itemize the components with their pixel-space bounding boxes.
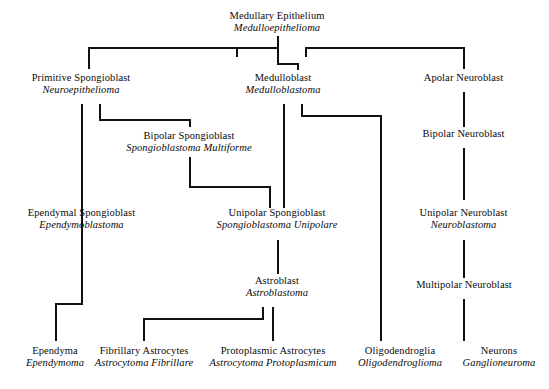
node-latin: Spongioblastoma Multiforme bbox=[110, 142, 268, 154]
node-latin: Astrocytoma Fibrillare bbox=[89, 357, 199, 369]
node-oligodendroglia[interactable]: Oligodendroglia Oligodendroglioma bbox=[351, 345, 449, 369]
connector-unipolar-in-left bbox=[269, 186, 271, 208]
node-label: Bipolar Spongioblast bbox=[110, 130, 268, 142]
connector-medulloblast-to-oligodendroglia bbox=[380, 115, 382, 341]
node-label: Ependyma bbox=[9, 345, 101, 357]
node-fibrillary-astrocytes[interactable]: Fibrillary Astrocytes Astrocytoma Fibril… bbox=[89, 345, 199, 369]
node-label: Medullary Epithelium bbox=[197, 10, 357, 22]
node-label: Multipolar Neuroblast bbox=[400, 279, 528, 291]
node-label: Apolar Neuroblast bbox=[405, 72, 522, 84]
connector-medulloblast-stem bbox=[277, 47, 279, 64]
node-label: Astroblast bbox=[222, 275, 332, 287]
node-latin: Neuroepithelioma bbox=[11, 84, 151, 96]
node-medullary-epithelium[interactable]: Medullary Epithelium Medulloepithelioma bbox=[197, 10, 357, 34]
connector-apolar-drop bbox=[463, 47, 465, 69]
node-label: Protoplasmic Astrocytes bbox=[205, 345, 341, 357]
node-label: Fibrillary Astrocytes bbox=[89, 345, 199, 357]
node-unipolar-neuroblast[interactable]: Unipolar Neuroblast Neuroblastoma bbox=[406, 207, 521, 231]
connector-ependymal-in bbox=[81, 180, 83, 208]
node-latin: Ganglioneuroma bbox=[453, 357, 545, 369]
connector-bipolar-out bbox=[189, 157, 191, 188]
connector-unipolar-to-multipolar bbox=[463, 240, 465, 278]
lineage-diagram: Medullary Epithelium Medulloepithelioma … bbox=[0, 0, 549, 389]
node-ependymal-spongioblast[interactable]: Ependymal Spongioblast Ependymoblastoma bbox=[9, 207, 154, 231]
node-label: Primitive Spongioblast bbox=[11, 72, 151, 84]
node-ependyma[interactable]: Ependyma Ependymoma bbox=[9, 345, 101, 369]
connector-top-bus-right bbox=[305, 47, 465, 49]
node-label: Unipolar Neuroblast bbox=[406, 207, 521, 219]
node-latin: Astroblastoma bbox=[222, 287, 332, 299]
connector-top-bus-right-tip bbox=[305, 47, 307, 57]
connector-top-bus-left bbox=[88, 47, 278, 49]
node-astroblast[interactable]: Astroblast Astroblastoma bbox=[222, 275, 332, 299]
connector-unipolar-to-astroblast bbox=[277, 240, 279, 274]
node-label: Medulloblast bbox=[228, 72, 338, 84]
node-latin: Ependymoblastoma bbox=[9, 219, 154, 231]
connector-primitive-to-bipolar-stem bbox=[99, 104, 101, 120]
node-apolar-neuroblast[interactable]: Apolar Neuroblast bbox=[405, 72, 522, 84]
node-label: Ependymal Spongioblast bbox=[9, 207, 154, 219]
connector-bipolar-drop bbox=[189, 119, 191, 127]
connector-ependymal-out bbox=[81, 240, 83, 305]
node-label: Unipolar Spongioblast bbox=[196, 207, 358, 219]
node-protoplasmic-astrocytes[interactable]: Protoplasmic Astrocytes Astrocytoma Prot… bbox=[205, 345, 341, 369]
node-label: Oligodendroglia bbox=[351, 345, 449, 357]
connector-bipolar-to-unipolar-bus bbox=[189, 186, 271, 188]
connector-protoplasmic-drop bbox=[272, 307, 274, 341]
connector-bipolar-to-unipolar-neuro bbox=[463, 148, 465, 200]
node-latin: Ependymoma bbox=[9, 357, 101, 369]
connector-medulloblast-to-oligo-bus bbox=[301, 115, 382, 117]
connector-medulloblast-drop bbox=[297, 63, 299, 70]
connector-multipolar-to-neurons bbox=[463, 299, 465, 341]
node-latin: Medulloepithelioma bbox=[197, 22, 357, 34]
node-bipolar-neuroblast[interactable]: Bipolar Neuroblast bbox=[406, 128, 521, 140]
node-neurons[interactable]: Neurons Ganglioneuroma bbox=[453, 345, 545, 369]
node-unipolar-spongioblast[interactable]: Unipolar Spongioblast Spongioblastoma Un… bbox=[196, 207, 358, 231]
node-bipolar-spongioblast[interactable]: Bipolar Spongioblast Spongioblastoma Mul… bbox=[110, 130, 268, 154]
connector-apolar-to-bipolar bbox=[463, 92, 465, 127]
node-multipolar-neuroblast[interactable]: Multipolar Neuroblast bbox=[400, 279, 528, 291]
node-latin: Astrocytoma Protoplasmicum bbox=[205, 357, 341, 369]
node-latin: Oligodendroglioma bbox=[351, 357, 449, 369]
connector-primitive-drop bbox=[88, 47, 90, 69]
node-medulloblast[interactable]: Medulloblast Medulloblastoma bbox=[228, 72, 338, 96]
connector-ependyma-drop bbox=[55, 303, 57, 341]
connector-medulloblast-to-unipolar bbox=[283, 104, 285, 208]
node-latin: Neuroblastoma bbox=[406, 219, 521, 231]
connector-astroblast-bus bbox=[143, 318, 264, 320]
node-latin: Spongioblastoma Unipolare bbox=[196, 219, 358, 231]
connector-ependyma-jog bbox=[55, 303, 83, 305]
connector-primitive-to-bipolar-bus bbox=[99, 119, 191, 121]
connector-fibrillary-drop bbox=[143, 318, 145, 341]
node-latin: Medulloblastoma bbox=[228, 84, 338, 96]
connector-medulloblast-jog bbox=[277, 63, 299, 65]
node-label: Neurons bbox=[453, 345, 545, 357]
node-label: Bipolar Neuroblast bbox=[406, 128, 521, 140]
node-primitive-spongioblast[interactable]: Primitive Spongioblast Neuroepithelioma bbox=[11, 72, 151, 96]
connector-top-bus-left-tip bbox=[236, 47, 238, 57]
